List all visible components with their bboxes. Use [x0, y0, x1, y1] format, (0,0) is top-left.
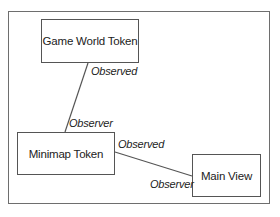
- node-game-world-token: Game World Token: [41, 19, 139, 63]
- edge-label-observed: Observed: [118, 138, 164, 150]
- node-label: Game World Token: [43, 35, 138, 47]
- edge-label-observer: Observer: [150, 178, 194, 190]
- edge-label-observer: Observer: [69, 117, 113, 129]
- node-label: Main View: [201, 170, 252, 182]
- node-main-view: Main View: [192, 154, 261, 197]
- node-minimap-token: Minimap Token: [17, 132, 115, 175]
- edge-label-observed: Observed: [91, 65, 137, 77]
- node-label: Minimap Token: [29, 148, 104, 160]
- edge-minimap-mainview: [115, 152, 192, 176]
